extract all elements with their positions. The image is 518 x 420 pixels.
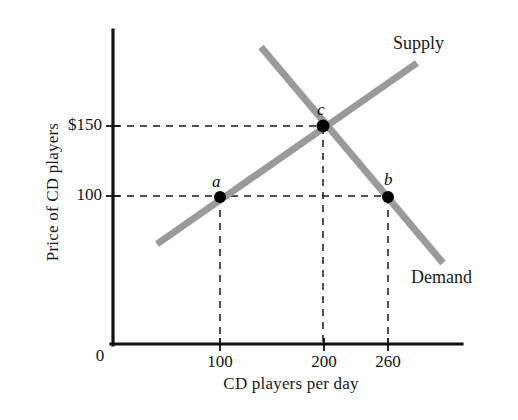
demand-curve-label: Demand: [411, 267, 472, 288]
supply-demand-chart: Price of CD players CD players per day 0…: [0, 0, 518, 420]
x-tick-label-260: 260: [360, 352, 416, 372]
data-point-a: [214, 191, 226, 203]
supply-curve: [157, 63, 417, 244]
supply-curve-label: Supply: [393, 33, 444, 54]
x-tick-label-100: 100: [192, 352, 248, 372]
point-label-b: b: [384, 170, 393, 190]
y-tick-label-100: 100: [42, 185, 102, 205]
data-point-c: [317, 120, 330, 133]
chart-plot-area: [0, 0, 518, 420]
x-tick-label-200: 200: [296, 352, 352, 372]
origin-tick-label: 0: [92, 346, 108, 366]
y-tick-label-150: $150: [42, 115, 102, 135]
data-point-b: [382, 191, 394, 203]
point-label-c: c: [317, 100, 325, 120]
point-label-a: a: [212, 172, 221, 192]
x-axis-title: CD players per day: [178, 374, 404, 394]
